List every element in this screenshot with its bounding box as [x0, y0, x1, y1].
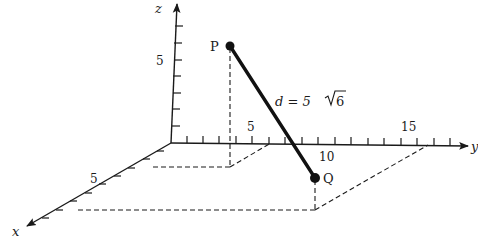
q-projection-lines	[78, 145, 428, 210]
x-axis-label: x	[12, 224, 20, 239]
x-axis: x 5	[12, 143, 171, 239]
x-axis-ticks	[42, 151, 164, 218]
point-p	[226, 42, 235, 51]
point-q-label: Q	[323, 171, 334, 186]
point-p-label: P	[210, 39, 219, 54]
z-axis-ticks	[172, 26, 183, 126]
y-tick-label-10: 10	[319, 150, 334, 164]
y-tick-label-15: 15	[401, 120, 416, 134]
distance-label: d = 5 6	[275, 91, 346, 109]
segment-pq	[230, 46, 315, 178]
p-projection-lines	[150, 48, 271, 167]
distance-label-prefix: d = 5	[275, 94, 311, 109]
3d-distance-diagram: z 5 y 5 10 15	[0, 0, 478, 239]
distance-label-radicand: 6	[336, 94, 344, 109]
z-axis: z 5	[154, 1, 183, 143]
y-axis: y 5 10 15	[171, 120, 478, 164]
point-q	[310, 173, 320, 183]
x-tick-label-5: 5	[90, 172, 98, 186]
y-axis-label: y	[470, 139, 478, 154]
y-tick-label-5: 5	[247, 120, 255, 134]
z-axis-label: z	[154, 1, 162, 16]
z-tick-label-5: 5	[156, 54, 164, 68]
